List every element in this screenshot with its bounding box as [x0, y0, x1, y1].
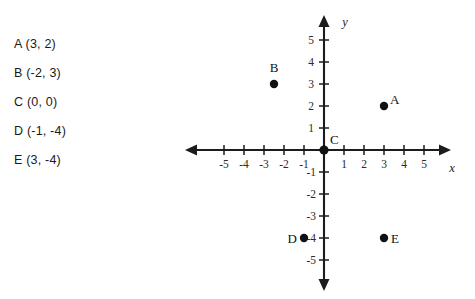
- point-marker: [380, 102, 388, 110]
- coordinate-plane-figure: A (3, 2) B (-2, 3) C (0, 0) D (-1, -4) E…: [0, 0, 475, 299]
- data-point-c: C: [319, 132, 338, 155]
- y-tick-label: 5: [308, 34, 314, 46]
- y-tick-label: 1: [308, 122, 314, 134]
- point-marker: [319, 145, 328, 154]
- data-point-e: E: [380, 231, 399, 246]
- point-label: A: [390, 92, 400, 107]
- cartesian-plot: -5 -4 -3 -2 -1 1 2 3 4 5 5 4 3 2 1 -1 -2…: [0, 0, 475, 299]
- y-axis-down-arrow: [319, 279, 330, 291]
- point-label: C: [330, 132, 339, 147]
- x-tick-label: 4: [401, 158, 407, 170]
- point-marker: [380, 234, 388, 242]
- x-tick-label: -2: [279, 158, 289, 170]
- y-axis-up-arrow: [319, 15, 330, 27]
- data-point-a: A: [380, 92, 400, 110]
- y-axis-label: y: [340, 15, 348, 29]
- y-tick-label: -1: [306, 166, 316, 178]
- y-tick-label: -2: [306, 188, 316, 200]
- x-axis-label: x: [448, 161, 455, 175]
- point-label: D: [288, 231, 297, 246]
- point-marker: [270, 80, 278, 88]
- x-tick-label: 1: [341, 158, 347, 170]
- data-point-b: B: [270, 60, 279, 88]
- y-tick-label: -5: [306, 254, 316, 266]
- x-tick-label: 3: [381, 158, 387, 170]
- y-tick-label: 2: [308, 100, 314, 112]
- x-tick-label: -5: [219, 158, 229, 170]
- x-axis-left-arrow: [185, 145, 197, 156]
- y-tick-label: 4: [308, 56, 314, 68]
- point-label: E: [391, 231, 399, 246]
- x-tick-label: 5: [421, 158, 427, 170]
- y-tick-label: -3: [306, 210, 316, 222]
- x-tick-label: -4: [239, 158, 249, 170]
- point-label: B: [270, 60, 279, 75]
- x-tick-label: -3: [259, 158, 269, 170]
- x-axis-right-arrow: [439, 145, 451, 156]
- x-tick-label: 2: [361, 158, 367, 170]
- data-point-d: D: [288, 231, 309, 246]
- point-marker: [300, 234, 308, 242]
- y-tick-label: 3: [308, 78, 314, 90]
